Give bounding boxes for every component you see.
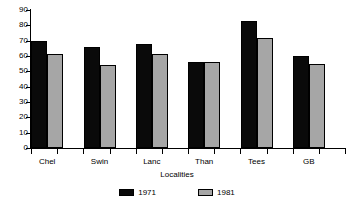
y-tick-label: 10 (0, 129, 28, 137)
x-tick-mark (293, 149, 294, 154)
x-category-label-gb: GB (283, 157, 335, 166)
bar-swin-1971 (84, 47, 100, 148)
x-tick-mark (319, 149, 320, 154)
legend-swatch-1981 (198, 189, 213, 196)
bar-lanc-1981 (152, 54, 168, 148)
x-tick-mark (136, 149, 137, 154)
bar-gb-1971 (293, 56, 309, 148)
x-tick-mark (162, 149, 163, 154)
plot-area (31, 10, 345, 148)
x-tick-mark (214, 149, 215, 154)
y-tick-label: 20 (0, 113, 28, 121)
x-tick-mark (267, 149, 268, 154)
y-tick-label: 90 (0, 6, 28, 14)
y-tick-label: 50 (0, 67, 28, 75)
y-tick-label: 80 (0, 21, 28, 29)
legend-swatch-1971 (119, 189, 134, 196)
bar-swin-1981 (100, 65, 116, 148)
y-tick-label: 60 (0, 52, 28, 60)
bar-lanc-1971 (136, 44, 152, 148)
y-tick-label: 40 (0, 83, 28, 91)
chart-legend: 19711981 (0, 188, 354, 197)
legend-label-1971: 1971 (138, 188, 156, 197)
bar-chart: 0102030405060708090 ChelSwinLancThanTees… (0, 0, 354, 209)
x-axis-title: Localities (0, 170, 354, 179)
x-category-label-swin: Swin (73, 157, 125, 166)
x-category-label-tees: Tees (230, 157, 282, 166)
bar-tees-1981 (257, 38, 273, 148)
y-tick-label: 0 (0, 144, 28, 152)
legend-entry-1981: 1981 (198, 188, 235, 197)
bar-chel-1971 (31, 41, 47, 148)
legend-entry-1971: 1971 (119, 188, 156, 197)
bar-chel-1981 (47, 54, 63, 148)
x-tick-mark (31, 149, 32, 154)
x-tick-mark (188, 149, 189, 154)
x-category-label-lanc: Lanc (126, 157, 178, 166)
x-tick-mark (110, 149, 111, 154)
y-tick-label: 30 (0, 98, 28, 106)
bar-than-1981 (204, 62, 220, 148)
x-category-label-chel: Chel (21, 157, 73, 166)
bar-tees-1971 (241, 21, 257, 148)
x-tick-mark (240, 149, 241, 154)
x-tick-mark (345, 149, 346, 154)
bar-than-1971 (188, 62, 204, 148)
x-category-label-than: Than (178, 157, 230, 166)
y-tick-label: 70 (0, 37, 28, 45)
bar-gb-1981 (309, 64, 325, 148)
x-tick-mark (83, 149, 84, 154)
x-tick-mark (57, 149, 58, 154)
legend-label-1981: 1981 (217, 188, 235, 197)
